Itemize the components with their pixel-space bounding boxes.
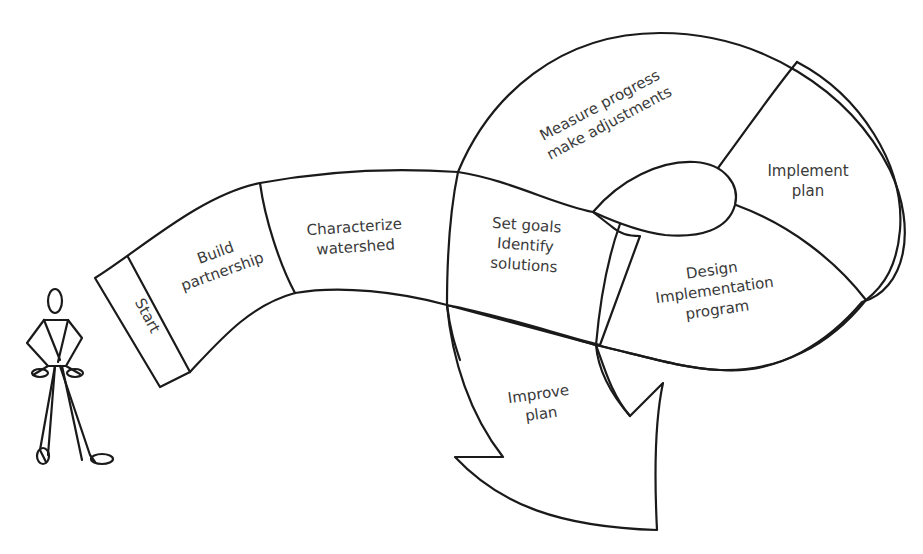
stick-figure-icon <box>27 289 113 464</box>
watershed-process-diagram: Start Build partnership Characterize wat… <box>0 0 923 554</box>
step-set-goals: Set goals Identify solutions <box>489 214 562 277</box>
svg-text:plan: plan <box>792 182 824 200</box>
svg-text:Implement: Implement <box>767 162 848 180</box>
